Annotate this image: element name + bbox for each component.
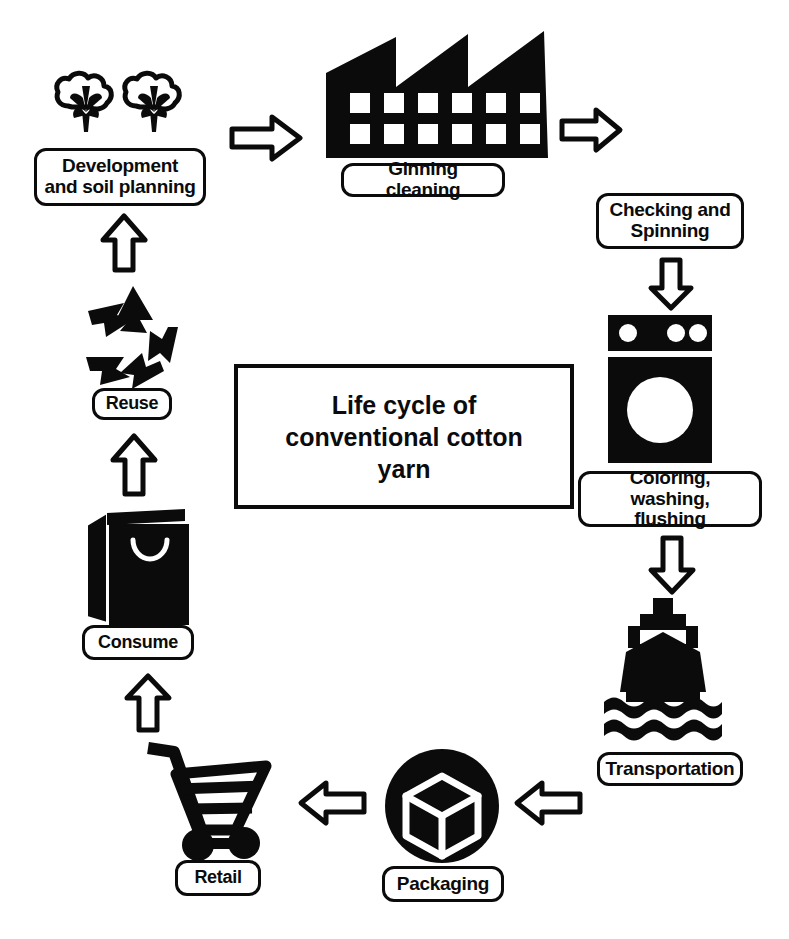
node-label-reuse[interactable]: Reuse <box>92 388 172 420</box>
shopping-cart-icon <box>140 740 292 866</box>
package-cube-icon <box>384 748 500 864</box>
node-label-coloring[interactable]: Coloring, washing, flushing <box>578 471 762 527</box>
recycle-icon <box>74 283 192 395</box>
arrow-checking-to-coloring <box>646 256 696 312</box>
arrow-ginning-to-checking <box>558 106 624 154</box>
node-label-ginning[interactable]: Ginning cleaning <box>341 163 505 197</box>
arrow-transportation-to-packaging <box>512 779 584 827</box>
shopping-bag-icon <box>85 507 193 629</box>
washing-machine-icon <box>604 313 716 465</box>
node-label-development[interactable]: Development and soil planning <box>34 148 206 206</box>
arrow-consume-to-reuse <box>108 432 160 498</box>
node-label-transportation[interactable]: Transportation <box>597 752 743 786</box>
node-label-packaging[interactable]: Packaging <box>382 866 504 902</box>
cotton-boll-icon <box>50 70 210 155</box>
arrow-reuse-to-development <box>98 212 150 274</box>
factory-icon <box>322 25 562 160</box>
node-label-retail[interactable]: Retail <box>175 860 261 896</box>
node-label-checking[interactable]: Checking and Spinning <box>596 193 744 249</box>
arrow-coloring-to-transportation <box>646 534 698 596</box>
cargo-ship-icon <box>600 596 726 742</box>
node-label-consume[interactable]: Consume <box>82 625 194 660</box>
arrow-retail-to-consume <box>122 672 174 734</box>
diagram-title: Life cycle of conventional cotton yarn <box>234 364 574 509</box>
life-cycle-diagram: Development and soil planning Ginning cl… <box>0 0 789 939</box>
arrow-packaging-to-retail <box>296 779 368 827</box>
arrow-development-to-ginning <box>228 112 304 164</box>
